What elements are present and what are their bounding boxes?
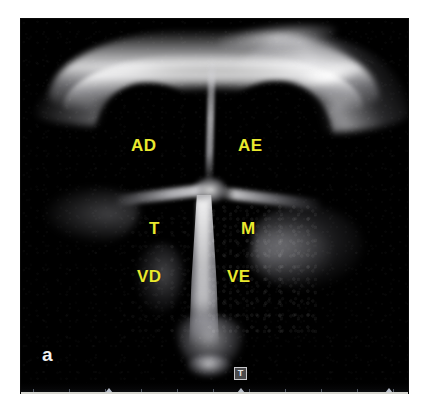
echo-chest-wall-left-arc (35, 65, 200, 127)
echo-tricuspid-valve-plane (111, 184, 208, 207)
echo-septum-highlight (197, 201, 209, 329)
echo-pericardium-inner-arc (63, 53, 363, 119)
echo-bright-reflector-right (296, 59, 363, 92)
echo-apex-tip (187, 355, 231, 377)
panel-label: a (42, 345, 53, 364)
echo-cardiac-apex (177, 315, 243, 371)
echo-left-ventricle-wall-inner (249, 225, 335, 287)
echo-left-atrium-cavity (217, 81, 333, 201)
ultrasound-speckle-noise (21, 19, 408, 393)
transducer-marker-label: T (238, 369, 244, 378)
ultrasound-image: AD AE T M VD VE a T (21, 19, 408, 393)
label-left-ventricle: VE (227, 268, 250, 285)
echo-interventricular-septum (189, 195, 219, 345)
echo-bright-reflector-top (216, 19, 338, 55)
echo-left-lateral-lung (45, 187, 139, 243)
transducer-orientation-marker: T (234, 367, 247, 380)
echo-left-ventricle-wall (253, 205, 363, 289)
figure-root: AD AE T M VD VE a T (0, 0, 430, 404)
echo-mitral-valve-plane (218, 187, 323, 211)
label-tricuspid-valve: T (149, 220, 160, 237)
echo-cardiac-crux (193, 177, 227, 203)
echo-ventricular-speckle-right (207, 205, 317, 335)
echo-pericardium-anterior-arc (49, 29, 379, 115)
label-right-ventricle: VD (137, 268, 161, 285)
label-left-atrium: AE (238, 137, 262, 154)
echo-chest-wall-right-arc (229, 37, 408, 133)
image-baseline-rule (21, 392, 408, 394)
echo-interatrial-septum (205, 57, 215, 183)
label-mitral-valve: M (241, 220, 256, 237)
label-right-atrium: AD (131, 137, 156, 154)
